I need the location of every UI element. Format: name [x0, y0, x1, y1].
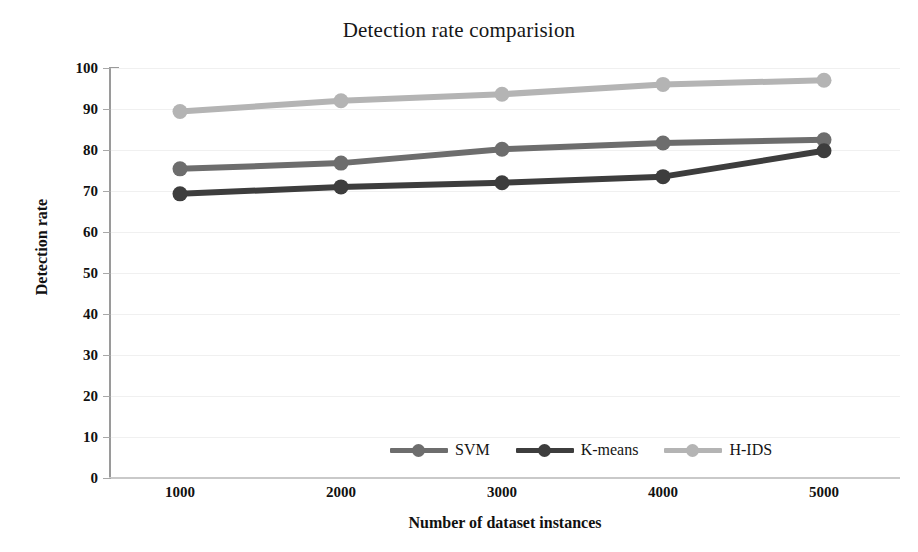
- y-tick-label: 0: [52, 470, 98, 487]
- chart-title: Detection rate comparision: [0, 18, 918, 43]
- y-tick-label: 40: [52, 306, 98, 323]
- y-tick-mark: [103, 232, 111, 233]
- x-tick-label: 3000: [442, 484, 562, 501]
- y-tick-mark: [103, 150, 111, 151]
- y-tick-label: 30: [52, 347, 98, 364]
- y-tick-label: 60: [52, 224, 98, 241]
- x-tick-label: 5000: [764, 484, 884, 501]
- x-tick-label: 2000: [281, 484, 401, 501]
- legend-label: SVM: [455, 441, 490, 459]
- y-tick-label: 10: [52, 429, 98, 446]
- plot-area: [110, 68, 900, 478]
- x-tick-label: 4000: [603, 484, 723, 501]
- y-axis-title: Detection rate: [33, 147, 51, 347]
- x-axis-title: Number of dataset instances: [110, 514, 900, 532]
- legend-swatch-icon: [516, 443, 574, 457]
- legend-item-svm[interactable]: SVM: [390, 441, 490, 459]
- gridline: [110, 191, 900, 192]
- y-tick-mark: [103, 478, 111, 479]
- legend-swatch-icon: [664, 443, 722, 457]
- y-tick-mark: [103, 314, 111, 315]
- gridline: [110, 355, 900, 356]
- legend-item-h-ids[interactable]: H-IDS: [664, 441, 772, 459]
- y-tick-mark: [103, 191, 111, 192]
- legend-marker-dot: [686, 444, 699, 457]
- gridline: [110, 314, 900, 315]
- x-tick-label: 1000: [120, 484, 240, 501]
- gridline: [110, 150, 900, 151]
- y-tick-mark: [103, 355, 111, 356]
- gridline: [110, 396, 900, 397]
- legend-marker-dot: [412, 444, 425, 457]
- gridline: [110, 68, 900, 69]
- gridline: [110, 232, 900, 233]
- y-tick-mark: [103, 68, 111, 69]
- y-tick-label: 20: [52, 388, 98, 405]
- y-tick-label: 100: [52, 60, 98, 77]
- y-tick-mark: [103, 109, 111, 110]
- y-tick-label: 90: [52, 101, 98, 118]
- y-tick-label: 50: [52, 265, 98, 282]
- y-tick-mark: [103, 396, 111, 397]
- chart-legend: SVMK-meansH-IDS: [390, 437, 772, 463]
- legend-label: K-means: [581, 441, 639, 459]
- gridline: [110, 273, 900, 274]
- y-tick-label: 80: [52, 142, 98, 159]
- legend-marker-dot: [538, 444, 551, 457]
- y-tick-label: 70: [52, 183, 98, 200]
- legend-swatch-icon: [390, 443, 448, 457]
- legend-item-k-means[interactable]: K-means: [516, 441, 639, 459]
- y-tick-mark: [103, 437, 111, 438]
- legend-label: H-IDS: [729, 441, 772, 459]
- y-tick-mark: [103, 273, 111, 274]
- chart-figure: Detection rate comparision 1009080706050…: [0, 0, 918, 552]
- gridline: [110, 109, 900, 110]
